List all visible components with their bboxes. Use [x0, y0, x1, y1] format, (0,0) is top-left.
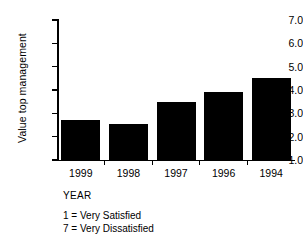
x-tick-label: 1998	[105, 167, 151, 179]
bar-chart-figure: Value top management 7.06.05.04.03.02.01…	[0, 0, 303, 247]
x-tick-label: 1994	[248, 167, 294, 179]
x-tick-mark	[199, 160, 200, 165]
x-tick-mark	[104, 160, 105, 165]
x-tick-mark	[152, 160, 153, 165]
x-tick-label: 1996	[201, 167, 247, 179]
x-tick-mark	[247, 160, 248, 165]
x-tick-label: 1997	[153, 167, 199, 179]
plot-area	[57, 20, 295, 160]
x-axis-title: YEAR	[63, 190, 91, 201]
legend-line-satisfied: 1 = Very Satisfied	[63, 210, 154, 223]
bar	[204, 92, 243, 160]
bar	[157, 102, 196, 160]
legend-line-dissatisfied: 7 = Very Dissatisfied	[63, 223, 154, 236]
bar	[109, 124, 148, 160]
bar	[61, 120, 100, 160]
scale-legend: 1 = Very Satisfied 7 = Very Dissatisfied	[63, 210, 154, 235]
x-tick-label: 1999	[58, 167, 104, 179]
y-axis-title: Value top management	[16, 8, 28, 168]
bar	[252, 78, 291, 160]
